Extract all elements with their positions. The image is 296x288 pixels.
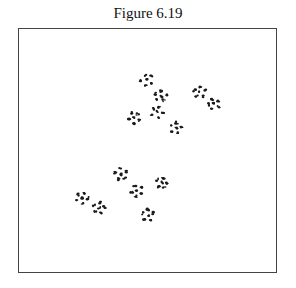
fractal-cluster xyxy=(139,74,154,87)
fractal-dot-plot xyxy=(0,0,296,288)
fractal-cluster xyxy=(129,185,143,198)
fractal-cluster xyxy=(150,106,165,119)
fractal-cluster xyxy=(141,207,155,221)
fractal-cluster xyxy=(113,167,128,181)
fractal-cluster xyxy=(92,201,107,215)
fractal-cluster xyxy=(170,121,184,134)
fractal-cluster xyxy=(75,192,89,205)
fractal-cluster xyxy=(155,177,169,188)
fractal-cluster xyxy=(207,98,220,110)
fractal-cluster xyxy=(154,89,169,102)
fractal-cluster xyxy=(127,111,141,125)
fractal-cluster xyxy=(192,86,207,99)
